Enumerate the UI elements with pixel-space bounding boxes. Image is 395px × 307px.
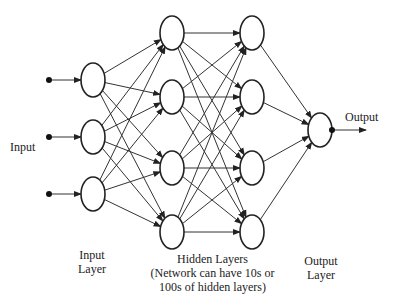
input-dot-icon: [46, 77, 52, 83]
connection-edge: [260, 45, 311, 118]
input-dot-icon: [46, 134, 52, 140]
input-node: [81, 120, 105, 154]
connection-edge: [105, 172, 161, 190]
hidden-layers-label-line2: (Network can have 10s or: [145, 266, 280, 280]
connection-edge: [263, 103, 308, 125]
hidden-2-node: [240, 16, 264, 50]
output-layer-label: Output Layer: [300, 254, 342, 282]
hidden-1-node: [160, 16, 184, 50]
hidden-2-node: [240, 80, 264, 114]
output-label: Output: [345, 110, 378, 124]
output-dot-icon: [329, 127, 335, 133]
input-layer-label: Input Layer: [72, 248, 112, 276]
hidden-2-node: [240, 151, 264, 185]
input-dot-icon: [46, 191, 52, 197]
output-node: [308, 113, 332, 147]
connection-edge: [100, 47, 165, 180]
input-label: Input: [10, 140, 35, 154]
hidden-1-node: [160, 215, 184, 249]
input-layer-label-line1: Input: [72, 248, 112, 262]
input-node: [81, 63, 105, 97]
connection-edge: [102, 108, 163, 183]
input-layer-label-line2: Layer: [72, 262, 112, 276]
hidden-layers-label-line3: 100s of hidden layers): [145, 280, 280, 294]
hidden-1-node: [160, 151, 184, 185]
hidden-layers-label-line1: Hidden Layers: [145, 252, 280, 266]
output-layer-label-line2: Layer: [300, 268, 342, 282]
connection-edge: [260, 142, 312, 219]
input-node: [81, 177, 105, 211]
hidden-1-node: [160, 80, 184, 114]
hidden-layers-label: Hidden Layers (Network can have 10s or 1…: [145, 252, 280, 294]
connection-edge: [104, 40, 161, 74]
hidden-2-node: [240, 215, 264, 249]
connection-edge: [104, 199, 160, 226]
connection-edge: [102, 91, 162, 158]
connection-edge: [102, 148, 163, 221]
connection-edge: [263, 136, 309, 162]
output-layer-label-line1: Output: [300, 254, 342, 268]
